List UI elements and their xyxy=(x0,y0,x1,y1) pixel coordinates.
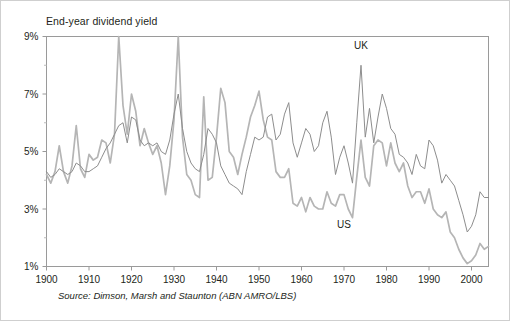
series-annotations: UKUS xyxy=(337,40,368,229)
x-axis-tick-label: 1980 xyxy=(375,274,398,285)
x-axis-tick-label: 1950 xyxy=(248,274,271,285)
axis-ticks xyxy=(43,37,472,271)
y-axis-labels: 9%7%5%3%1% xyxy=(24,31,39,272)
source-note: Source: Dimson, Marsh and Staunton (ABN … xyxy=(58,290,296,301)
x-axis-tick-label: 1940 xyxy=(205,274,228,285)
y-axis-tick-label: 1% xyxy=(24,261,39,272)
x-axis-tick-label: 1900 xyxy=(35,274,58,285)
x-axis-labels: 1900191019201930194019501960197019801990… xyxy=(35,274,483,285)
y-axis-tick-label: 5% xyxy=(24,146,39,157)
y-axis-tick-label: 3% xyxy=(24,204,39,215)
chart-figure: End-year dividend yield 9%7%5%3%1% 19001… xyxy=(0,0,510,321)
series-label-us: US xyxy=(337,219,351,230)
x-axis-tick-label: 1930 xyxy=(163,274,186,285)
chart-plot-area: 9%7%5%3%1% 19001910192019301940195019601… xyxy=(1,1,510,321)
series-line-us xyxy=(47,37,489,264)
x-axis-tick-label: 1920 xyxy=(120,274,143,285)
y-axis-tick-label: 9% xyxy=(24,31,39,42)
y-axis-tick-label: 7% xyxy=(24,89,39,100)
x-axis-tick-label: 1970 xyxy=(333,274,356,285)
x-axis-tick-label: 1960 xyxy=(290,274,313,285)
series-label-uk: UK xyxy=(354,40,368,51)
x-axis-tick-label: 2000 xyxy=(460,274,483,285)
x-axis-tick-label: 1990 xyxy=(418,274,441,285)
data-series xyxy=(47,37,489,264)
x-axis-tick-label: 1910 xyxy=(78,274,101,285)
